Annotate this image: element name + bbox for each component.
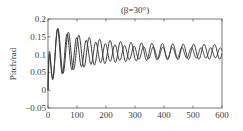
y-tick-label: 0.15: [30, 32, 46, 42]
x-tick-label: 300: [128, 110, 142, 120]
x-tick-label: 500: [186, 110, 200, 120]
x-tick-label: 600: [215, 110, 229, 120]
y-tick-label: 0.1: [35, 50, 46, 60]
data-lines: [48, 28, 222, 90]
y-ticks: −0.0500.050.10.150.2: [25, 14, 50, 113]
y-tick-label: 0.05: [30, 67, 46, 77]
x-tick-label: 200: [99, 110, 113, 120]
x-tick-label: 0: [46, 110, 51, 120]
x-tick-label: 400: [157, 110, 171, 120]
y-tick-label: 0.2: [35, 14, 46, 24]
chart-title: (β=30°): [121, 5, 149, 15]
y-axis-label: Pitch/rad: [8, 47, 18, 80]
y-tick-label: 0: [42, 85, 47, 95]
y-tick-label: −0.05: [25, 103, 46, 113]
pitch-chart: (β=30°) Pitch/rad −0.0500.050.10.150.2 0…: [0, 0, 243, 131]
plot-area: [48, 19, 222, 108]
x-tick-label: 100: [70, 110, 84, 120]
